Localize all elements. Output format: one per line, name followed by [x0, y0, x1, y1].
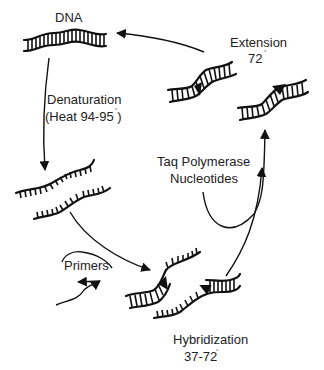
taq-polymerase-label: Taq Polymerase [157, 154, 250, 169]
single-strand-top-icon [16, 160, 94, 198]
extension-label: Extension [230, 35, 287, 50]
nucleotides-label: Nucleotides [170, 171, 238, 186]
dna-double-strand-icon [24, 30, 106, 51]
primer-arrow [56, 281, 100, 305]
cycle-return-arrow [117, 33, 204, 52]
primer-arrow-2 [78, 281, 100, 282]
dna-label: DNA [55, 10, 83, 25]
hybridization-strand-left-icon [126, 248, 200, 308]
degree-mark-2: ° [216, 348, 219, 354]
extension-strand-left-icon [168, 62, 236, 102]
extension-temp-label: 72 [248, 51, 262, 66]
hybridization-label: Hybridization [173, 332, 248, 347]
hybridization-temp-label: 37-72 [184, 349, 217, 364]
hybridization-strand-right-icon [154, 274, 240, 318]
denaturation-temp-label: (Heat 94-95 ) [45, 109, 122, 124]
primers-label: Primers [64, 258, 109, 273]
denaturation-label: Denaturation [47, 92, 121, 107]
polymerase-arrowhead-2 [272, 84, 286, 95]
pcr-diagram: DNA Denaturation (Heat 94-95 ) ° [0, 0, 324, 370]
extension-strand-right-icon [238, 80, 308, 120]
